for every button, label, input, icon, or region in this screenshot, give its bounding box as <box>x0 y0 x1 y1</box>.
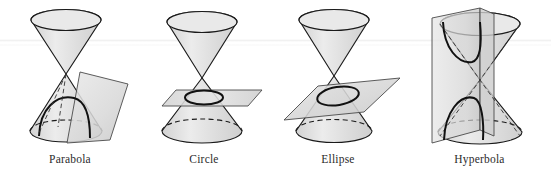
ellipse-diagram <box>268 0 408 150</box>
lower-cone-circle <box>162 78 242 143</box>
cutting-plane-ellipse <box>284 78 400 120</box>
upper-cone-ellipse <box>299 10 369 77</box>
caption-ellipse: Ellipse <box>268 153 408 165</box>
upper-cone-parabola <box>31 10 101 75</box>
parabola-diagram <box>0 0 140 150</box>
panel-parabola: Parabola <box>0 0 140 177</box>
cutting-plane-hyperbola-back <box>432 8 480 143</box>
hyperbola-diagram <box>408 0 551 150</box>
conic-sections-figure: Parabola <box>0 0 551 177</box>
cutting-plane-parabola <box>67 72 128 143</box>
caption-parabola: Parabola <box>0 153 140 165</box>
upper-cone-circle <box>167 12 237 79</box>
caption-hyperbola: Hyperbola <box>408 153 551 165</box>
caption-circle: Circle <box>140 153 268 165</box>
panel-hyperbola: Hyperbola <box>408 0 551 177</box>
circle-diagram <box>140 0 268 150</box>
panel-ellipse: Ellipse <box>268 0 408 177</box>
panel-circle: Circle <box>140 0 268 177</box>
